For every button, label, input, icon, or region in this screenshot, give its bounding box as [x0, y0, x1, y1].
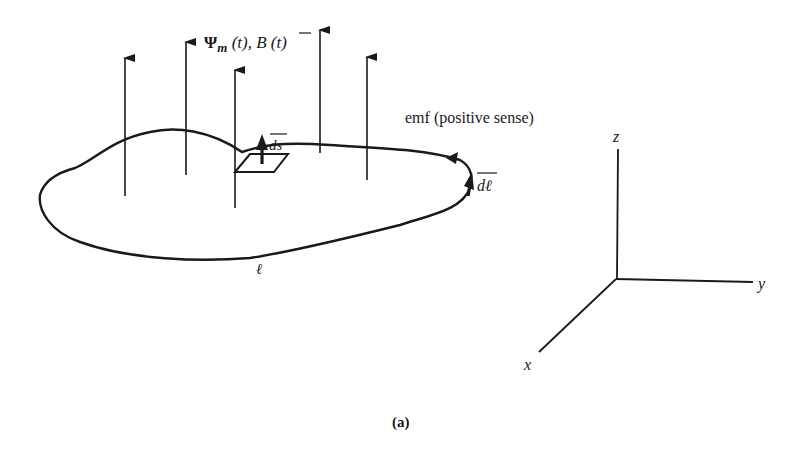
y-axis-label: y — [756, 275, 766, 293]
z-axis-label: z — [612, 128, 620, 145]
ds-label: ds — [269, 137, 283, 153]
y-axis — [616, 279, 753, 282]
b-field-symbol: B — [256, 33, 267, 52]
x-axis — [539, 279, 616, 352]
flux-label: Ψm (t), B (t) — [204, 33, 287, 55]
figure-caption: (a) — [392, 414, 410, 431]
ds-arrowhead-icon — [256, 134, 268, 150]
psi-symbol: Ψ — [204, 33, 218, 52]
b-field-argument: (t) — [267, 33, 288, 52]
z-axis — [617, 149, 618, 279]
emf-direction-arrow-icon — [446, 152, 458, 164]
dl-label: dℓ — [477, 177, 492, 194]
emf-label: emf (positive sense) — [405, 109, 534, 127]
psi-subscript: m — [217, 40, 227, 55]
contour-loop — [40, 129, 472, 259]
faraday-loop-figure: Ψm (t), B (t) emf (positive sense) dℓ ds… — [0, 0, 803, 456]
x-axis-label: x — [523, 356, 531, 373]
psi-argument: (t), — [227, 33, 256, 52]
loop-label: ℓ — [256, 261, 262, 277]
